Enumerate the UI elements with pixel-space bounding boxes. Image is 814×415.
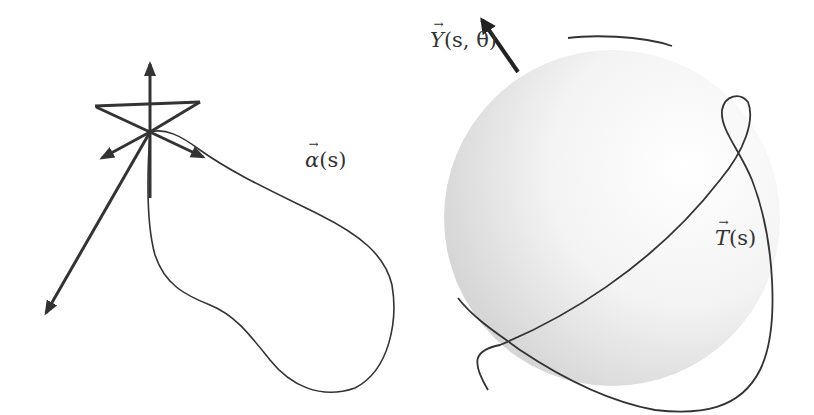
t-curve-label: T(s) [715, 228, 756, 249]
alpha-args: (s) [319, 148, 346, 172]
right-panel [444, 20, 780, 412]
left-panel [46, 64, 394, 392]
y-args: (s, θ) [444, 28, 497, 52]
alpha-symbol: α [305, 150, 319, 171]
line-upper-right [150, 102, 200, 132]
t-args: (s) [729, 226, 756, 250]
alpha-curve [148, 131, 394, 392]
y-symbol: Y [430, 30, 444, 51]
diagram-canvas [0, 0, 814, 415]
long-arrow-down-left [46, 132, 150, 313]
frame-arrows [46, 64, 203, 313]
diagonal-line-1 [95, 102, 200, 106]
y-vector-label: Y(s, θ) [430, 30, 497, 51]
t-symbol: T [715, 228, 729, 249]
unit-sphere [444, 50, 780, 386]
alpha-label: α(s) [305, 150, 346, 171]
line-upper-left [96, 107, 150, 132]
